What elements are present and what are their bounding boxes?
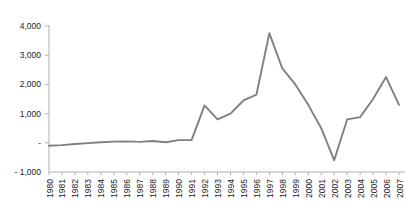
x-axis-tick-label: 1984 xyxy=(96,179,106,198)
x-axis-tick-label: 1997 xyxy=(265,179,275,198)
x-axis-tick-label: 1993 xyxy=(213,179,223,198)
x-axis-tick-label: 1981 xyxy=(57,179,67,198)
x-axis-tick-label: 1985 xyxy=(109,179,119,198)
x-axis-tick-label: 1987 xyxy=(135,179,145,198)
x-axis-tick-label: 1999 xyxy=(291,179,301,198)
data-series-line xyxy=(49,33,399,160)
x-axis-tick-label: 1989 xyxy=(161,179,171,198)
x-axis-tick-label: 1990 xyxy=(174,179,184,198)
x-axis-tick-label: 1982 xyxy=(70,179,80,198)
x-axis-tick-label: 2001 xyxy=(317,179,327,198)
x-axis-tick-label: 1991 xyxy=(187,179,197,198)
y-axis-tick-label: 2,000 xyxy=(20,79,42,89)
line-chart: - 1,000-1,0002,0003,0004,000198019811982… xyxy=(0,0,407,215)
x-axis-tick-label: 1994 xyxy=(226,179,236,198)
y-axis-tick-label: - 1,000 xyxy=(15,167,42,177)
y-axis-tick-label: 4,000 xyxy=(20,21,42,31)
x-axis-tick-label: 2007 xyxy=(395,179,405,198)
x-axis-tick-label: 2002 xyxy=(330,179,340,198)
y-axis-tick-label: 3,000 xyxy=(20,50,42,60)
x-axis-tick-label: 2003 xyxy=(343,179,353,198)
x-axis-tick-label: 2006 xyxy=(382,179,392,198)
x-axis-tick-label: 1986 xyxy=(122,179,132,198)
x-axis-tick-label: 1995 xyxy=(239,179,249,198)
x-axis-tick-label: 2005 xyxy=(369,179,379,198)
x-axis-tick-label: 1983 xyxy=(83,179,93,198)
x-axis-tick-label: 1998 xyxy=(278,179,288,198)
x-axis-tick-label: 2004 xyxy=(356,179,366,198)
chart-figure: - 1,000-1,0002,0003,0004,000198019811982… xyxy=(0,0,407,215)
x-axis-tick-label: 2000 xyxy=(304,179,314,198)
x-axis-tick-label: 1996 xyxy=(252,179,262,198)
y-axis-tick-label: 1,000 xyxy=(20,109,42,119)
y-axis-tick-label: - xyxy=(38,138,41,148)
x-axis-tick-label: 1980 xyxy=(45,179,55,198)
x-axis-tick-label: 1992 xyxy=(200,179,210,198)
x-axis-tick-label: 1988 xyxy=(148,179,158,198)
